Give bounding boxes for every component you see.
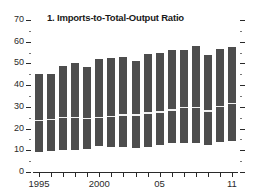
bar-2004 — [144, 54, 152, 147]
x-axis-tick-2004 — [148, 173, 149, 177]
x-axis-tick-1995 — [39, 173, 40, 177]
x-axis-tick-1997 — [63, 173, 64, 177]
right-axis-minor-tick-mark — [240, 161, 242, 162]
bar-1998 — [71, 63, 79, 150]
bar-divider — [119, 114, 127, 116]
bar-2009 — [204, 55, 212, 145]
y-axis-minor-tick-mark — [29, 74, 31, 75]
y-axis-minor-tick-mark — [29, 53, 31, 54]
bar-1996 — [47, 74, 55, 151]
x-axis-label-2000: 2000 — [89, 178, 110, 190]
chart-container: 1. Imports-to-Total-Output Ratio 0102030… — [0, 0, 263, 192]
bar-2001 — [107, 58, 115, 147]
bar-divider — [144, 112, 152, 114]
y-axis-tick-label: 30 — [14, 101, 24, 112]
y-axis-tick-mark — [26, 63, 31, 64]
y-axis-tick-mark — [26, 107, 31, 108]
right-axis-tick-mark — [240, 85, 245, 86]
right-axis-minor-tick-mark — [240, 53, 242, 54]
bar-divider — [168, 109, 176, 111]
bar-divider — [192, 107, 200, 109]
y-axis-tick-label: 70 — [14, 14, 24, 25]
y-axis-tick-mark — [26, 150, 31, 151]
x-axis-tick-2006 — [172, 173, 173, 177]
right-axis-minor-tick-mark — [240, 31, 242, 32]
x-axis-tick-2010 — [220, 173, 221, 177]
x-axis-tick-2001 — [111, 173, 112, 177]
right-axis-tick-mark — [240, 107, 245, 108]
x-axis-label-2005: 05 — [154, 178, 165, 190]
y-axis-tick-label: 0 — [19, 166, 24, 177]
bar-1995 — [35, 74, 43, 152]
right-axis-tick-mark — [240, 129, 245, 130]
x-axis-tick-2005 — [160, 173, 161, 177]
x-axis-label-1995: 1995 — [28, 178, 49, 190]
bar-2010 — [216, 49, 224, 141]
y-axis-minor-tick-mark — [29, 161, 31, 162]
plot-area — [33, 20, 238, 172]
bar-2007 — [180, 50, 188, 142]
bar-divider — [156, 111, 164, 113]
right-axis — [238, 20, 263, 172]
bar-divider — [47, 119, 55, 121]
bar-divider — [95, 117, 103, 119]
right-axis-minor-tick-mark — [240, 118, 242, 119]
bar-2011 — [228, 47, 236, 140]
y-axis-minor-tick-mark — [29, 96, 31, 97]
x-axis-tick-2011 — [232, 173, 233, 177]
right-axis-tick-mark — [240, 63, 245, 64]
x-axis-tick-1999 — [87, 173, 88, 177]
x-axis-tick-2000 — [99, 173, 100, 177]
y-axis-tick-label: 60 — [14, 36, 24, 47]
y-axis-tick-label: 40 — [14, 79, 24, 90]
right-axis-minor-tick-mark — [240, 96, 242, 97]
bar-divider — [83, 118, 91, 120]
bar-2003 — [132, 61, 140, 148]
y-axis-minor-tick-mark — [29, 139, 31, 140]
x-axis-tick-2009 — [208, 173, 209, 177]
bar-divider — [107, 116, 115, 118]
y-axis-tick-mark — [26, 172, 31, 173]
right-axis-tick-mark — [240, 172, 245, 173]
x-axis-tick-2008 — [196, 173, 197, 177]
bar-divider — [59, 117, 67, 119]
y-axis-tick-mark — [26, 42, 31, 43]
y-axis-tick-mark — [26, 129, 31, 130]
bar-divider — [180, 107, 188, 109]
x-axis-tick-2007 — [184, 173, 185, 177]
bar-2002 — [119, 57, 127, 147]
x-axis-tick-2003 — [136, 173, 137, 177]
y-axis-minor-tick-mark — [29, 118, 31, 119]
y-axis-tick-mark — [26, 20, 31, 21]
x-axis-tick-1998 — [75, 173, 76, 177]
x-axis-tick-2002 — [123, 173, 124, 177]
bar-divider — [71, 117, 79, 119]
x-axis-labels: 199520000511 — [33, 178, 238, 192]
y-axis: 010203040506070 — [0, 20, 33, 172]
bar-1997 — [59, 66, 67, 151]
y-axis-tick-mark — [26, 85, 31, 86]
right-axis-tick-mark — [240, 42, 245, 43]
y-axis-tick-label: 50 — [14, 57, 24, 68]
bar-2008 — [192, 46, 200, 143]
bar-2006 — [168, 50, 176, 142]
y-axis-tick-label: 20 — [14, 123, 24, 134]
y-axis-minor-tick-mark — [29, 31, 31, 32]
x-axis-tick-1996 — [51, 173, 52, 177]
bar-2005 — [156, 53, 164, 145]
bar-divider — [132, 114, 140, 116]
bar-2000 — [95, 59, 103, 146]
x-axis-label-2011: 11 — [227, 178, 237, 190]
right-axis-tick-mark — [240, 20, 245, 21]
bar-divider — [216, 106, 224, 108]
y-axis-tick-label: 10 — [14, 144, 24, 155]
bar-divider — [228, 103, 236, 105]
right-axis-minor-tick-mark — [240, 74, 242, 75]
bar-divider — [35, 120, 43, 122]
bar-divider — [204, 110, 212, 112]
right-axis-minor-tick-mark — [240, 139, 242, 140]
right-axis-tick-mark — [240, 150, 245, 151]
bar-1999 — [83, 67, 91, 150]
